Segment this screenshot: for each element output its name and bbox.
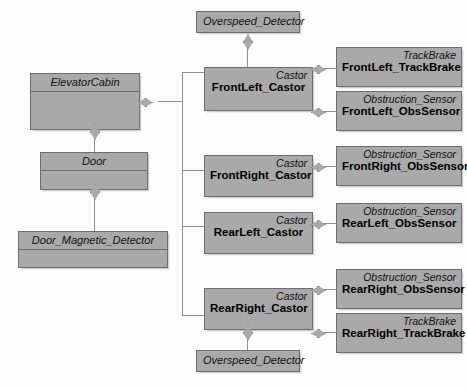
connector-castor-trunk — [182, 72, 183, 315]
stereotype-frontright-obssensor: Obstruction_Sensor — [342, 148, 456, 160]
instance-name-frontright-castor: FrontRight_Castor — [210, 169, 307, 183]
aggregation-diamond-frontright-right — [311, 163, 326, 172]
stereotype-rearleft-obssensor: Obstruction_Sensor — [342, 205, 456, 217]
instance-name-rearleft-castor: RearLeft_Castor — [210, 226, 307, 240]
instance-name-rearright-trackbrake: RearRight_TrackBrake — [342, 327, 456, 341]
class-title-frontright-obssensor: Obstruction_Sensor FrontRight_ObsSensor — [337, 147, 461, 176]
class-name-overspeed-detector-top: Overspeed_Detector — [197, 12, 299, 30]
aggregation-diamond-rearright-right-bottom — [311, 329, 326, 338]
class-title-frontright-castor: Castor FrontRight_Castor — [205, 156, 312, 185]
class-box-overspeed-detector-bottom[interactable]: Overspeed_Detector — [196, 350, 300, 372]
aggregation-diamond-cabin-right — [138, 98, 153, 107]
class-name-elevator-cabin: ElevatorCabin — [31, 74, 139, 91]
instance-name-frontright-obssensor: FrontRight_ObsSensor — [342, 160, 456, 174]
class-box-door[interactable]: Door — [40, 152, 148, 190]
aggregation-diamond-rearleft-right — [311, 220, 326, 229]
stereotype-frontleft-obssensor: Obstruction_Sensor — [342, 93, 456, 105]
class-box-frontright-castor[interactable]: Castor FrontRight_Castor — [204, 155, 313, 197]
connector-cabin-to-trunk — [158, 101, 183, 102]
class-title-frontleft-trackbrake: TrackBrake FrontLeft_TrackBrake — [337, 48, 461, 77]
stereotype-rearright-castor: Castor — [210, 290, 307, 302]
instance-name-rearright-obssensor: RearRight_ObsSensor — [342, 283, 456, 297]
instance-name-frontleft-trackbrake: FrontLeft_TrackBrake — [342, 61, 456, 75]
aggregation-diamond-rearright-right-top — [311, 286, 326, 295]
class-box-rearright-castor[interactable]: Castor RearRight_Castor — [204, 288, 313, 330]
class-box-rearleft-obssensor[interactable]: Obstruction_Sensor RearLeft_ObsSensor — [336, 203, 462, 243]
stereotype-rearright-obssensor: Obstruction_Sensor — [342, 271, 456, 283]
instance-name-rearright-castor: RearRight_Castor — [210, 302, 307, 316]
class-compartment-door-magnetic-detector — [19, 249, 167, 267]
instance-name-rearleft-obssensor: RearLeft_ObsSensor — [342, 217, 456, 231]
instance-name-frontleft-castor: FrontLeft_Castor — [210, 81, 307, 95]
uml-diagram-canvas: ElevatorCabin Door Door_Magnetic_Detecto… — [0, 0, 467, 389]
class-box-rearright-trackbrake[interactable]: TrackBrake RearRight_TrackBrake — [336, 313, 462, 353]
class-box-rearleft-castor[interactable]: Castor RearLeft_Castor — [204, 212, 313, 254]
class-name-door: Door — [41, 153, 147, 170]
class-title-rearright-castor: Castor RearRight_Castor — [205, 289, 312, 318]
class-title-rearright-obssensor: Obstruction_Sensor RearRight_ObsSensor — [337, 270, 461, 299]
stereotype-frontleft-trackbrake: TrackBrake — [342, 49, 456, 61]
class-box-rearright-obssensor[interactable]: Obstruction_Sensor RearRight_ObsSensor — [336, 269, 462, 309]
class-title-rearright-trackbrake: TrackBrake RearRight_TrackBrake — [337, 314, 461, 343]
aggregation-diamond-frontleft-right-top — [311, 65, 326, 74]
class-title-rearleft-obssensor: Obstruction_Sensor RearLeft_ObsSensor — [337, 204, 461, 233]
class-box-door-magnetic-detector[interactable]: Door_Magnetic_Detector — [18, 231, 168, 268]
class-name-overspeed-detector-bottom: Overspeed_Detector — [197, 351, 299, 369]
connector-trunk-frontright — [182, 170, 204, 171]
stereotype-frontright-castor: Castor — [210, 157, 307, 169]
class-box-frontleft-castor[interactable]: Castor FrontLeft_Castor — [204, 67, 313, 111]
stereotype-rearright-trackbrake: TrackBrake — [342, 315, 456, 327]
connector-trunk-rearright — [182, 315, 204, 316]
class-name-door-magnetic-detector: Door_Magnetic_Detector — [19, 232, 167, 249]
class-title-frontleft-castor: Castor FrontLeft_Castor — [205, 68, 312, 97]
class-title-frontleft-obssensor: Obstruction_Sensor FrontLeft_ObsSensor — [337, 92, 461, 121]
class-title-rearleft-castor: Castor RearLeft_Castor — [205, 213, 312, 242]
class-box-frontleft-trackbrake[interactable]: TrackBrake FrontLeft_TrackBrake — [336, 47, 462, 87]
aggregation-diamond-frontleft-right-bottom — [311, 108, 326, 117]
class-box-frontleft-obssensor[interactable]: Obstruction_Sensor FrontLeft_ObsSensor — [336, 91, 462, 131]
class-box-overspeed-detector-top[interactable]: Overspeed_Detector — [196, 11, 300, 33]
connector-trunk-rearleft — [182, 226, 204, 227]
connector-trunk-frontleft — [182, 72, 204, 73]
aggregation-diamond-frontleft-castor-top — [243, 34, 253, 50]
stereotype-frontleft-castor: Castor — [210, 69, 307, 81]
class-compartment-elevator-cabin — [31, 91, 139, 129]
class-box-elevator-cabin[interactable]: ElevatorCabin — [30, 73, 140, 130]
class-box-frontright-obssensor[interactable]: Obstruction_Sensor FrontRight_ObsSensor — [336, 146, 462, 186]
instance-name-frontleft-obssensor: FrontLeft_ObsSensor — [342, 105, 456, 119]
stereotype-rearleft-castor: Castor — [210, 214, 307, 226]
